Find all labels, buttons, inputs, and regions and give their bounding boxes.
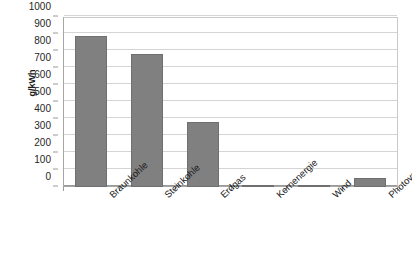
y-tick-label-100: 100 <box>34 154 51 165</box>
x-tick-mark-0 <box>63 187 64 191</box>
bars-layer <box>63 17 398 187</box>
bar-braunkohle[interactable] <box>75 36 107 187</box>
bar-slot <box>342 17 398 187</box>
x-label-wind: Wind <box>330 192 338 200</box>
y-tick-mark-500 <box>53 101 58 102</box>
y-tick-mark-400 <box>53 118 58 119</box>
bar-photovoltaik[interactable] <box>354 178 386 187</box>
y-tick-mark-600 <box>53 84 58 85</box>
gridline-1000 <box>64 15 397 16</box>
y-tick-label-600: 600 <box>34 69 51 80</box>
y-tick-label-500: 500 <box>34 86 51 97</box>
bar-chart: g/kWh 01002003004005006007008009001000 B… <box>0 0 412 256</box>
y-tick-label-200: 200 <box>34 137 51 148</box>
y-tick-mark-0 <box>53 186 58 187</box>
y-tick-mark-200 <box>53 152 58 153</box>
y-tick-mark-700 <box>53 67 58 68</box>
y-tick-label-0: 0 <box>45 171 51 182</box>
y-tick-label-800: 800 <box>34 35 51 46</box>
y-tick-label-300: 300 <box>34 120 51 131</box>
x-label-kernenergie: Kernenergie <box>274 192 282 200</box>
y-tick-mark-1000 <box>53 16 58 17</box>
y-tick-label-1000: 1000 <box>29 1 51 12</box>
x-label-steinkohle: Steinkohle <box>162 192 170 200</box>
bar-slot <box>63 17 119 187</box>
y-tick-mark-900 <box>53 33 58 34</box>
y-tick-mark-100 <box>53 169 58 170</box>
y-tick-label-400: 400 <box>34 103 51 114</box>
x-label-erdgas: Erdgas <box>218 192 226 200</box>
bar-slot <box>119 17 175 187</box>
y-axis-ticks: 01002003004005006007008009001000 <box>0 17 58 187</box>
y-tick-mark-800 <box>53 50 58 51</box>
bar-slot <box>231 17 287 187</box>
bar-slot <box>175 17 231 187</box>
y-tick-label-900: 900 <box>34 18 51 29</box>
y-tick-label-700: 700 <box>34 52 51 63</box>
x-label-photovoltaik: Photovoltaik <box>386 192 394 200</box>
x-axis-labels: BraunkohleSteinkohleErdgasKernenergieWin… <box>63 192 412 256</box>
x-label-braunkohle: Braunkohle <box>107 192 115 200</box>
y-tick-mark-300 <box>53 135 58 136</box>
